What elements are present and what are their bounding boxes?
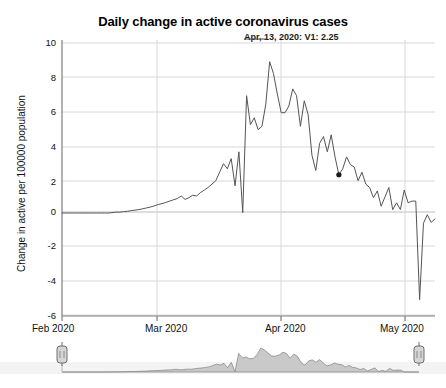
range-selector[interactable]: [0, 336, 446, 388]
range-handle-right[interactable]: [414, 342, 424, 366]
grid-lines: [62, 40, 435, 316]
highlighted-data-point-marker[interactable]: [336, 172, 341, 177]
chart-container: Daily change in active coronavirus cases…: [0, 0, 446, 388]
range-handle-left[interactable]: [57, 342, 67, 366]
plot-area[interactable]: [0, 0, 446, 336]
